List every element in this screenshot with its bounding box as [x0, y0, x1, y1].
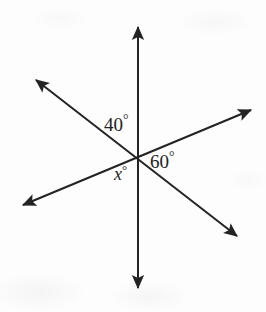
degree-symbol-icon: °: [123, 112, 128, 127]
degree-symbol-icon: °: [169, 149, 174, 164]
diagram-lines-svg: [0, 0, 266, 312]
angle-diagram-figure: 40° 60° x°: [0, 0, 266, 312]
degree-symbol-icon: °: [122, 162, 127, 177]
angle-label-60-value: 60: [150, 151, 169, 172]
angle-label-x: x°: [114, 164, 127, 183]
angle-label-40: 40°: [104, 113, 128, 134]
angle-label-40-value: 40: [104, 114, 123, 135]
angle-label-60: 60°: [150, 150, 174, 171]
angle-label-x-value: x: [114, 164, 122, 184]
